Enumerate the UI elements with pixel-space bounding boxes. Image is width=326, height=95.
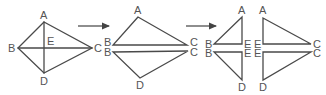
triangle-ecd	[263, 52, 311, 80]
kite-figure: A B C D E	[8, 9, 102, 87]
triangle-aec	[263, 18, 311, 44]
label-b-lower: B	[104, 46, 111, 58]
label-e: E	[47, 35, 54, 47]
label-c: C	[94, 42, 102, 54]
four-triangles-figure: A B E B E D A E C E C D	[205, 4, 321, 93]
label-d: D	[136, 79, 144, 91]
label-a-right: A	[259, 4, 267, 16]
label-c-lower: C	[190, 46, 198, 58]
label-e-lower-right: E	[254, 47, 261, 59]
triangle-bed	[214, 52, 242, 80]
label-b-lower: B	[205, 47, 212, 59]
triangle-bcd	[113, 51, 188, 78]
label-e-lower-left: E	[244, 47, 251, 59]
triangle-abe	[214, 17, 242, 44]
two-triangles-figure: A B C B C D	[104, 4, 198, 91]
label-a: A	[134, 4, 142, 16]
label-a-left: A	[238, 4, 246, 16]
label-a: A	[40, 9, 48, 21]
diagram-canvas: A B C D E A B C B C D A B E B E D A E C …	[0, 0, 326, 95]
label-d-right: D	[259, 81, 267, 93]
triangle-abc	[113, 17, 187, 45]
label-b: B	[8, 42, 15, 54]
label-d: D	[40, 75, 48, 87]
label-d-left: D	[238, 81, 246, 93]
label-c-lower: C	[313, 47, 321, 59]
